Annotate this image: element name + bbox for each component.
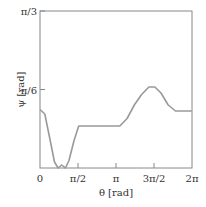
x-tick-label: π/2: [70, 173, 86, 184]
x-tick-label: π: [113, 173, 120, 184]
x-tick-label: 2π: [186, 173, 199, 184]
line-chart: 0π/2π3π/22ππ/6π/3θ [rad]ψ [rad]: [0, 0, 206, 207]
x-tick-label: 3π/2: [143, 173, 166, 184]
data-line: [40, 87, 192, 168]
y-axis-title: ψ [rad]: [15, 71, 26, 107]
plot-frame: [40, 11, 192, 168]
chart: 0π/2π3π/22ππ/6π/3θ [rad]ψ [rad] θ [rad] …: [0, 0, 206, 207]
x-axis-title: θ [rad]: [99, 187, 133, 198]
y-tick-label: π/3: [21, 6, 37, 17]
x-tick-label: 0: [37, 173, 43, 184]
